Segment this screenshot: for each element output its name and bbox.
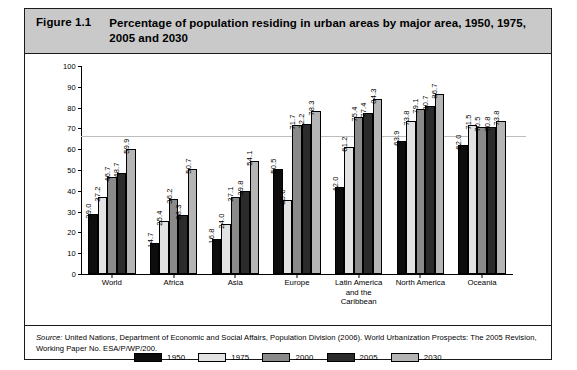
bar-value-label: 37.2 [93,186,102,201]
bar-value-label: 75.4 [350,106,359,121]
bar[interactable] [458,145,468,274]
source-text: United Nations, Department of Economic a… [36,333,537,353]
bar-wrapper: 35.6 [283,66,293,274]
bar[interactable] [178,215,188,274]
bar[interactable] [159,221,169,274]
bar-group: 62.071.570.570.873.8 [458,66,506,274]
bar-value-label: 79.1 [411,99,420,114]
bar-group: 63.973.879.180.786.7 [397,66,445,274]
bar-wrapper: 70.5 [477,66,487,274]
bar-value-label: 84.3 [369,88,378,103]
bar-value-label: 70.8 [483,116,492,131]
bar-wrapper: 72.2 [302,66,312,274]
bar-value-label: 54.1 [245,151,254,166]
bar[interactable] [435,94,445,274]
legend-item[interactable]: 2005 [327,353,378,362]
bar[interactable] [354,117,364,274]
bar-value-label: 63.9 [392,130,401,145]
legend-item[interactable]: 1975 [198,353,249,362]
bar-group: 16.824.037.139.854.1 [212,66,260,274]
figure-title: Percentage of population residing in urb… [109,16,539,45]
source-note: Source: United Nations, Department of Ec… [25,325,551,354]
bar[interactable] [406,121,416,275]
bar-value-label: 78.3 [307,100,316,115]
bar[interactable] [126,149,136,274]
bar-value-label: 28.3 [174,204,183,219]
bar[interactable] [311,111,321,274]
bar[interactable] [231,197,241,274]
bar-wrapper: 73.8 [406,66,416,274]
bar-wrapper: 37.1 [231,66,241,274]
bar-value-label: 35.6 [278,189,287,204]
bar[interactable] [302,124,312,274]
x-axis-category-label: Oceania [452,278,512,307]
legend-item[interactable]: 2030 [391,353,442,362]
bar-value-label: 48.7 [112,162,121,177]
bar-value-label: 73.8 [402,110,411,125]
bar[interactable] [212,239,222,274]
bar-wrapper: 25.4 [159,66,169,274]
x-axis-category-label: Africa [144,278,204,307]
bar-wrapper: 36.2 [169,66,179,274]
legend-swatch [134,353,162,362]
legend-item[interactable]: 1950 [134,353,185,362]
legend-label: 1975 [231,353,249,362]
bar-wrapper: 62.0 [458,66,468,274]
bar-value-label: 71.5 [464,115,473,130]
legend-label: 1950 [167,353,185,362]
figure-frame: Figure 1.1 Percentage of population resi… [24,8,552,360]
bar[interactable] [240,191,250,274]
x-axis-category-label: Asia [205,278,265,307]
bar-wrapper: 75.4 [354,66,364,274]
bar-wrapper: 39.8 [240,66,250,274]
x-axis-category-label: World [82,278,142,307]
bar-value-label: 86.7 [430,83,439,98]
bar-wrapper: 14.7 [150,66,160,274]
bar[interactable] [250,161,260,274]
bar-value-label: 25.4 [155,210,164,225]
legend-swatch [198,353,226,362]
legend-label: 2005 [360,353,378,362]
bar-group: 50.535.671.772.278.3 [273,66,321,274]
bar[interactable] [98,197,108,274]
bar[interactable] [373,99,383,274]
bar-wrapper: 86.7 [435,66,445,274]
bar[interactable] [273,169,283,274]
bar-value-label: 73.8 [492,110,501,125]
bar-wrapper: 42.0 [335,66,345,274]
bar-wrapper: 71.5 [468,66,478,274]
bar-wrapper: 16.8 [212,66,222,274]
bar-wrapper: 50.5 [273,66,283,274]
x-axis-category-label: Latin Americaand theCaribbean [329,278,389,307]
bar[interactable] [221,224,231,274]
bar-wrapper: 29.0 [88,66,98,274]
bar-wrapper: 59.9 [126,66,136,274]
bar[interactable] [117,173,127,274]
legend-label: 2000 [295,353,313,362]
bar-value-label: 50.5 [269,158,278,173]
bar[interactable] [496,121,506,275]
bar[interactable] [188,169,198,274]
bar-wrapper: 73.8 [496,66,506,274]
legend-item[interactable]: 2000 [262,353,313,362]
bar[interactable] [477,127,487,274]
bar[interactable] [107,177,117,274]
bar-wrapper: 24.0 [221,66,231,274]
bar[interactable] [283,200,293,274]
bar[interactable] [425,106,435,274]
bar[interactable] [487,127,497,274]
bar-value-label: 29.0 [84,203,93,218]
bar-value-label: 62.0 [454,134,463,149]
bar[interactable] [292,125,302,274]
bar[interactable] [468,125,478,274]
bar[interactable] [150,243,160,274]
bar[interactable] [397,141,407,274]
bar[interactable] [363,113,373,274]
bar[interactable] [416,109,426,274]
bar[interactable] [344,147,354,274]
legend-swatch [262,353,290,362]
x-axis-category-label: North America [390,278,450,307]
bar[interactable] [88,214,98,274]
chart-plot-area: 0102030405060708090100 29.037.246.748.75… [25,54,551,316]
bar[interactable] [335,187,345,274]
